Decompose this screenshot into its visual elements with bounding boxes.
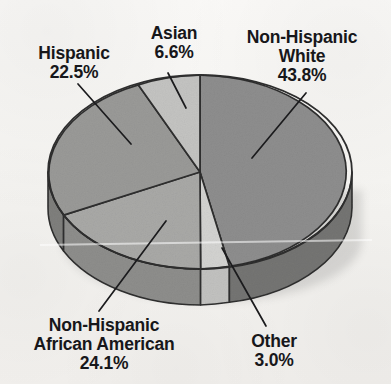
label-african-american-value: 24.1% [22, 354, 186, 373]
label-asian-value: 6.6% [136, 43, 212, 62]
label-non-hispanic-white-line2: White [279, 46, 326, 66]
label-non-hispanic-white-value: 43.8% [243, 66, 361, 85]
slice-side-other [201, 266, 230, 305]
pie-chart-figure: Non-Hispanic White 43.8% Hispanic 22.5% … [0, 0, 391, 384]
label-non-hispanic-white: Non-Hispanic White 43.8% [243, 28, 361, 85]
label-african-american-line1: Non-Hispanic [49, 315, 159, 335]
label-asian-line1: Asian [151, 23, 198, 43]
label-other: Other 3.0% [236, 332, 312, 370]
label-other-line1: Other [251, 331, 297, 351]
label-hispanic-value: 22.5% [19, 63, 129, 82]
label-non-hispanic-african-american: Non-Hispanic African American 24.1% [22, 316, 186, 373]
label-hispanic-line1: Hispanic [38, 43, 109, 63]
label-hispanic: Hispanic 22.5% [19, 44, 129, 82]
label-non-hispanic-white-line1: Non-Hispanic [247, 27, 357, 47]
label-other-value: 3.0% [236, 351, 312, 370]
label-asian: Asian 6.6% [136, 24, 212, 62]
label-african-american-line2: African American [33, 334, 174, 354]
